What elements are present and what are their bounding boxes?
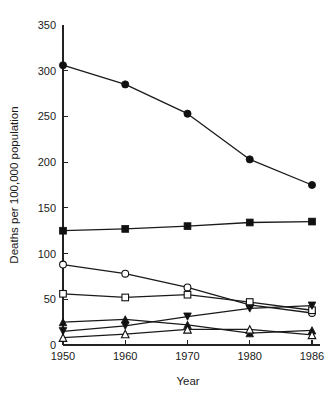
y-tick-label: 50 — [44, 293, 56, 305]
filled-square-marker — [309, 218, 316, 225]
open-circle-series — [60, 261, 316, 316]
filled-circle-marker — [184, 110, 191, 117]
open-circle-marker — [60, 261, 67, 268]
filled-circle-marker — [122, 81, 129, 88]
chart-axes — [63, 25, 320, 345]
mortality-line-chart: 050100150200250300350 195019601970198019… — [0, 0, 332, 394]
filled-circle-marker — [246, 156, 253, 163]
x-tick-label: 1960 — [113, 350, 137, 362]
open-square-marker — [122, 294, 129, 301]
filled-circle-marker — [308, 181, 315, 188]
y-tick-label: 100 — [38, 248, 56, 260]
y-tick-label: 150 — [38, 202, 56, 214]
filled-square-marker — [122, 225, 129, 232]
x-tick-label: 1980 — [238, 350, 262, 362]
y-axis-title: Deaths per 100,000 population — [8, 106, 20, 263]
x-tick-label: 1986 — [300, 350, 324, 362]
y-tick-label: 350 — [38, 19, 56, 31]
filled-square-marker — [60, 227, 67, 234]
chart-series-group — [59, 62, 316, 342]
y-tick-label: 200 — [38, 156, 56, 168]
open-square-marker — [184, 291, 191, 298]
x-axis-title: Year — [176, 375, 199, 387]
filled-square-marker — [184, 223, 191, 230]
filled-circle-marker — [59, 62, 66, 69]
y-tick-label: 250 — [38, 110, 56, 122]
x-tick-label: 1970 — [175, 350, 199, 362]
filled-circle-series — [59, 62, 315, 189]
chart-container: 050100150200250300350 195019601970198019… — [0, 0, 332, 394]
x-tick-label: 1950 — [51, 350, 75, 362]
open-circle-marker — [122, 270, 129, 277]
filled-circle-series-line — [63, 65, 312, 185]
filled-square-marker — [246, 219, 253, 226]
x-axis-ticks: 19501960197019801986 — [51, 340, 324, 362]
filled-square-series — [60, 218, 316, 234]
y-tick-label: 300 — [38, 65, 56, 77]
open-square-marker — [60, 291, 67, 298]
open-circle-marker — [184, 284, 191, 291]
open-square-series — [60, 291, 316, 314]
